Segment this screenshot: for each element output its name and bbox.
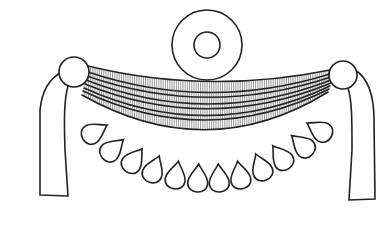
knob-left [59,57,89,87]
teardrop-pendant [164,159,189,190]
knob-right [329,61,357,89]
strap-left [40,72,68,196]
teardrop-pendant [228,159,253,190]
strap-right [348,70,375,200]
teardrop-pendant [208,163,229,192]
sun-disc [172,10,242,80]
teardrop-pendant [139,152,168,185]
teardrop-pendant [187,163,208,192]
collar-drawing [0,0,387,226]
disc-inner [194,32,220,58]
collar-svg [0,0,387,226]
